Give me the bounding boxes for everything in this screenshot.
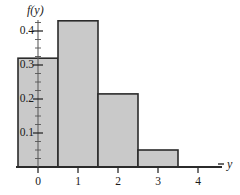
y-tick-label-0.3: 0.3 <box>4 59 34 71</box>
bar-series <box>18 21 178 167</box>
bar-2 <box>98 94 138 167</box>
x-tick-label-0: 0 <box>28 176 48 188</box>
plot-area <box>0 0 240 195</box>
bar-1 <box>58 21 98 167</box>
bar-3 <box>138 150 178 167</box>
x-tick-label-1: 1 <box>68 176 88 188</box>
y-tick-label-0.4: 0.4 <box>4 25 34 37</box>
y-tick-label-0.2: 0.2 <box>4 93 34 105</box>
x-axis-title: y <box>227 158 232 170</box>
x-tick-label-3: 3 <box>148 176 168 188</box>
y-tick-label-0.1: 0.1 <box>4 127 34 139</box>
y-axis-title: f(y) <box>27 4 44 16</box>
histogram-figure: 0.4 0.3 0.2 0.1 0 1 2 3 4 f(y) y <box>0 0 240 195</box>
x-tick-label-4: 4 <box>188 176 208 188</box>
x-tick-label-2: 2 <box>108 176 128 188</box>
